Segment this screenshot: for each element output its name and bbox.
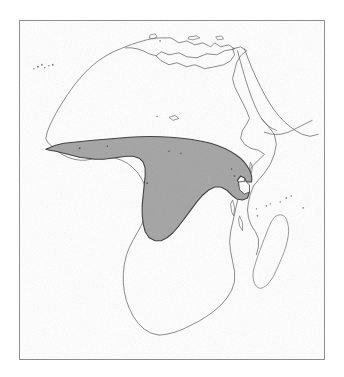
map-frame [19,20,325,360]
paper-grain-overlay [20,21,324,359]
africa-range-map [20,21,324,359]
figure-root [0,0,344,377]
